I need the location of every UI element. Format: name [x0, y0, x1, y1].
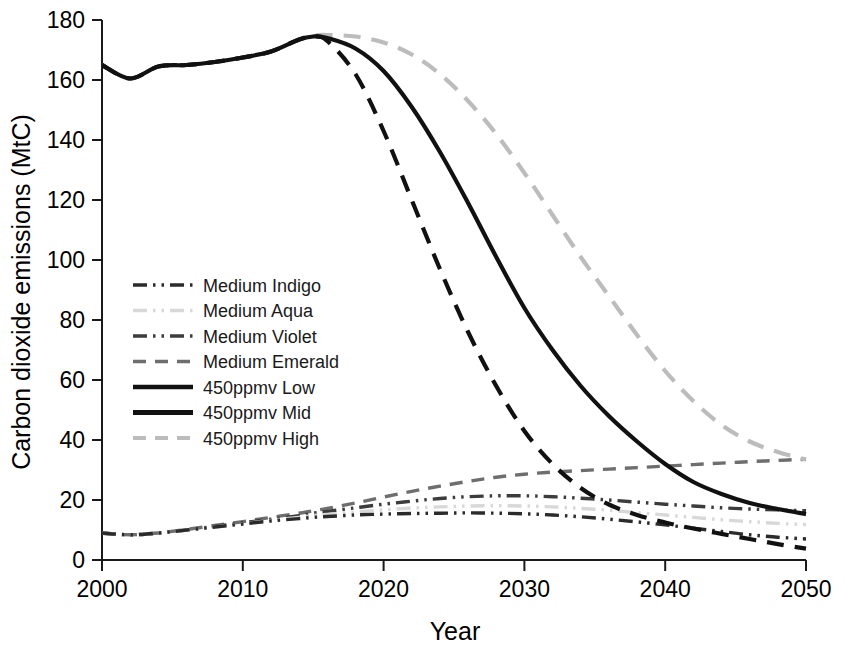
legend-label: 450ppmv Mid	[203, 403, 311, 423]
legend-label: Medium Indigo	[203, 276, 321, 296]
y-tick-label: 140	[47, 127, 85, 153]
y-tick-label: 40	[59, 427, 85, 453]
chart-container: 020406080100120140160180 200020102020203…	[0, 0, 862, 663]
y-tick-label: 80	[59, 307, 85, 333]
x-tick-label: 2040	[640, 576, 691, 602]
legend: Medium IndigoMedium AquaMedium VioletMed…	[133, 276, 339, 449]
y-axis-title: Carbon dioxide emissions (MtC)	[7, 114, 35, 470]
y-tick-label: 180	[47, 7, 85, 33]
x-tick-label: 2030	[499, 576, 550, 602]
y-tick-label: 20	[59, 487, 85, 513]
y-tick-label: 120	[47, 187, 85, 213]
co2-emissions-line-chart: 020406080100120140160180 200020102020203…	[0, 0, 862, 663]
y-tick-label: 0	[72, 547, 85, 573]
x-tick-label: 2020	[358, 576, 409, 602]
x-axis: 200020102020203020402050	[76, 560, 831, 602]
legend-label: Medium Aqua	[203, 301, 314, 321]
y-tick-label: 60	[59, 367, 85, 393]
y-axis: 020406080100120140160180	[47, 7, 102, 573]
legend-label: Medium Violet	[203, 327, 317, 347]
x-tick-label: 2010	[217, 576, 268, 602]
legend-label: 450ppmv High	[203, 429, 319, 449]
x-tick-label: 2000	[76, 576, 127, 602]
legend-label: 450ppmv Low	[203, 378, 316, 398]
x-tick-label: 2050	[780, 576, 831, 602]
y-tick-label: 100	[47, 247, 85, 273]
x-axis-title: Year	[430, 617, 481, 645]
legend-label: Medium Emerald	[203, 352, 339, 372]
y-tick-label: 160	[47, 67, 85, 93]
